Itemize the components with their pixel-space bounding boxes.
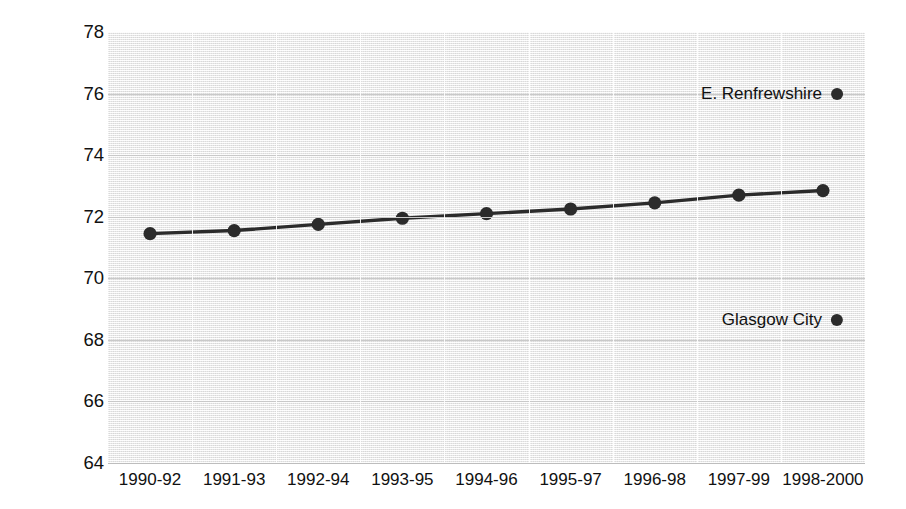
data-point-marker xyxy=(228,224,241,237)
legend-label: E. Renfrewshire xyxy=(701,84,822,104)
x-axis-tick-label: 1998-2000 xyxy=(763,470,883,490)
gridline-horizontal xyxy=(108,340,865,341)
y-axis-tick-label: 76 xyxy=(44,83,104,105)
y-axis-tick-label: 68 xyxy=(44,329,104,351)
data-point-marker xyxy=(143,227,156,240)
y-axis-tick-label: 74 xyxy=(44,144,104,166)
data-point-marker xyxy=(312,218,325,231)
gridline-vertical xyxy=(529,32,530,463)
gridline-vertical xyxy=(276,32,277,463)
data-point-marker xyxy=(732,189,745,202)
gridline-horizontal xyxy=(108,401,865,402)
gridline-horizontal xyxy=(108,155,865,156)
x-axis-line xyxy=(108,463,865,464)
gridline-vertical xyxy=(697,32,698,463)
gridline-vertical xyxy=(613,32,614,463)
legend-label: Glasgow City xyxy=(722,310,822,330)
data-point-marker xyxy=(816,184,829,197)
chart-figure: Life expectency in years 646668707274767… xyxy=(0,0,906,509)
gridline-vertical xyxy=(192,32,193,463)
data-point-marker xyxy=(480,207,493,220)
legend-entry[interactable]: E. Renfrewshire xyxy=(701,84,843,104)
gridline-vertical xyxy=(444,32,445,463)
y-axis-tick-label: 72 xyxy=(44,206,104,228)
gridline-horizontal xyxy=(108,217,865,218)
gridline-horizontal xyxy=(108,278,865,279)
legend-entry[interactable]: Glasgow City xyxy=(722,310,843,330)
data-point-marker xyxy=(564,202,577,215)
y-axis-tick-label: 78 xyxy=(44,21,104,43)
y-axis-tick-label: 70 xyxy=(44,267,104,289)
gridline-vertical xyxy=(360,32,361,463)
data-point-marker xyxy=(396,212,409,225)
y-axis-tick-label: 66 xyxy=(44,390,104,412)
data-point-marker xyxy=(648,196,661,209)
legend-marker-icon xyxy=(831,88,843,100)
legend-marker-icon xyxy=(831,314,843,326)
